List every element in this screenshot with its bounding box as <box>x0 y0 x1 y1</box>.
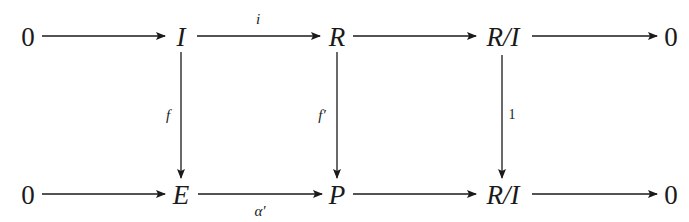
node-bottom-zero-left: 0 <box>21 182 35 209</box>
node-R: R <box>329 24 346 51</box>
commutative-diagram: 0 I R R/I 0 0 E P R/I 0 i α′ f f′ 1 <box>0 0 689 222</box>
label-i: i <box>256 12 260 27</box>
node-top-R-mod-I: R/I <box>487 24 520 51</box>
node-bottom-R-mod-I: R/I <box>487 182 520 209</box>
node-top-zero-left: 0 <box>21 24 35 51</box>
label-one: 1 <box>509 108 516 122</box>
node-I: I <box>177 24 186 51</box>
label-f-prime: f′ <box>318 108 325 123</box>
node-top-zero-right: 0 <box>664 24 678 51</box>
node-bottom-zero-right: 0 <box>664 182 678 209</box>
label-f: f <box>166 108 170 123</box>
node-E: E <box>173 182 190 209</box>
label-alpha-prime: α′ <box>254 204 265 219</box>
node-P: P <box>329 182 346 209</box>
